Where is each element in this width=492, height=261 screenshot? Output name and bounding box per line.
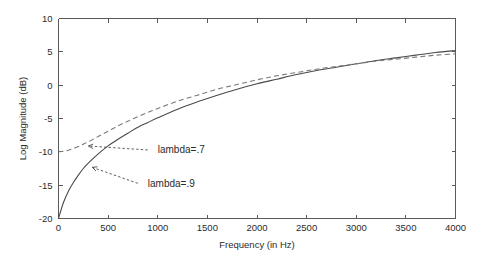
x-tick-label: 500 [100, 222, 116, 233]
frequency-response-chart: 05001000150020002500300035004000 -20-15-… [0, 0, 492, 261]
x-tick-label: 1000 [147, 222, 168, 233]
y-tick-label: 5 [47, 46, 52, 57]
x-tick-label: 4000 [445, 222, 466, 233]
annotation-label: lambda=.9 [148, 178, 195, 189]
y-tick-label: -10 [39, 146, 53, 157]
y-tick-label: 0 [47, 80, 52, 91]
y-tick-label: -15 [39, 180, 53, 191]
y-tick-label: -20 [39, 213, 53, 224]
x-axis-label: Frequency (in Hz) [219, 239, 295, 250]
x-tick-label: 1500 [197, 222, 218, 233]
x-tick-label: 3000 [346, 222, 367, 233]
y-tick-label: 10 [42, 13, 53, 24]
annotation-label: lambda=.7 [158, 144, 205, 155]
y-axis-label: Log Magnitude (dB) [17, 77, 28, 160]
x-tick-label: 3500 [395, 222, 416, 233]
y-tick-label: -5 [44, 113, 52, 124]
x-tick-label: 0 [56, 222, 61, 233]
x-tick-label: 2000 [246, 222, 267, 233]
figure-canvas: 05001000150020002500300035004000 -20-15-… [0, 0, 492, 261]
x-tick-label: 2500 [296, 222, 317, 233]
